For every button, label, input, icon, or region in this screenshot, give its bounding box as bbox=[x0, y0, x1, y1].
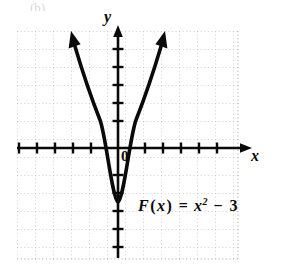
x-axis-label: x bbox=[251, 147, 259, 165]
equation-equals: = bbox=[178, 197, 190, 214]
grid-lines bbox=[17, 31, 238, 259]
equation-label: F(x) = x2 − 3 bbox=[138, 196, 239, 215]
equation-open-paren: ( bbox=[149, 197, 157, 214]
equation-exponent: 2 bbox=[202, 196, 208, 207]
equation-close-paren: ) bbox=[166, 197, 174, 214]
equation-argument: x bbox=[157, 197, 166, 214]
equation-constant: 3 bbox=[229, 197, 240, 214]
equation-function-name: F bbox=[138, 197, 149, 214]
y-axis-label: y bbox=[104, 8, 111, 26]
equation-minus: − bbox=[212, 197, 224, 214]
origin-label: 0 bbox=[121, 148, 129, 165]
graph-figure bbox=[0, 0, 282, 265]
